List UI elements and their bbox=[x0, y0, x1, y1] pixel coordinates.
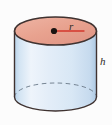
cylinder-illustration bbox=[0, 0, 112, 125]
radius-label: r bbox=[69, 21, 73, 32]
cylinder-figure: r h bbox=[0, 0, 112, 125]
center-point-dot bbox=[51, 28, 57, 34]
height-label: h bbox=[100, 56, 106, 67]
